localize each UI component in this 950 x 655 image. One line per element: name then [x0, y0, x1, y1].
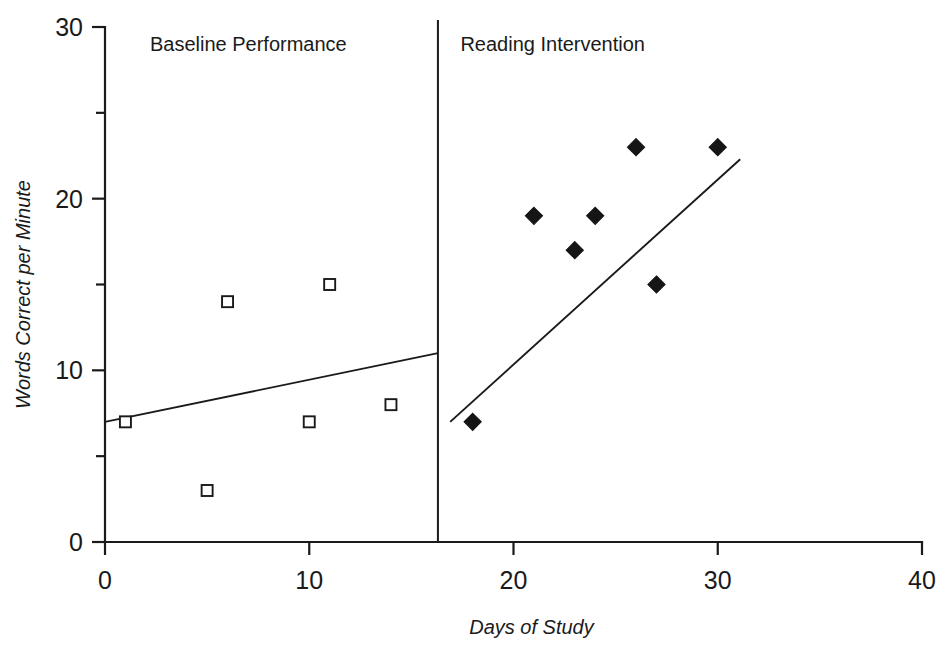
x-tick-label: 0 — [98, 566, 112, 594]
phase-annotations-layer: Baseline PerformanceReading Intervention — [150, 33, 645, 55]
data-point-filled-diamond — [628, 139, 645, 156]
x-tick-label: 40 — [908, 566, 936, 594]
x-tick-label: 10 — [295, 566, 323, 594]
y-tick-label: 30 — [55, 13, 83, 41]
phase-label: Baseline Performance — [150, 33, 347, 55]
phase-label: Reading Intervention — [460, 33, 645, 55]
data-points-layer — [120, 139, 726, 496]
trend-lines-layer — [105, 159, 740, 422]
data-point-filled-diamond — [464, 413, 481, 430]
chart-container: 0102030400102030 Baseline PerformanceRea… — [0, 0, 950, 655]
data-point-filled-diamond — [587, 207, 604, 224]
data-point-filled-diamond — [709, 139, 726, 156]
data-point-open-square — [385, 399, 396, 410]
data-point-filled-diamond — [566, 242, 583, 259]
y-tick-label: 20 — [55, 185, 83, 213]
data-point-open-square — [222, 296, 233, 307]
trend-line — [450, 159, 740, 422]
x-tick-label: 30 — [704, 566, 732, 594]
tick-labels-layer: 0102030400102030 — [55, 13, 936, 594]
y-tick-label: 0 — [69, 528, 83, 556]
y-tick-label: 10 — [55, 356, 83, 384]
data-point-filled-diamond — [648, 276, 665, 293]
axes-layer — [105, 27, 922, 542]
tick-marks-layer — [92, 27, 922, 555]
trend-line — [105, 353, 438, 422]
data-point-open-square — [120, 416, 131, 427]
data-point-open-square — [304, 416, 315, 427]
x-axis-title: Days of Study — [469, 616, 595, 638]
data-point-filled-diamond — [525, 207, 542, 224]
data-point-open-square — [202, 485, 213, 496]
scatter-plot: 0102030400102030 Baseline PerformanceRea… — [0, 0, 950, 655]
y-axis-title: Words Correct per Minute — [12, 180, 34, 409]
data-point-open-square — [324, 279, 335, 290]
x-tick-label: 20 — [500, 566, 528, 594]
